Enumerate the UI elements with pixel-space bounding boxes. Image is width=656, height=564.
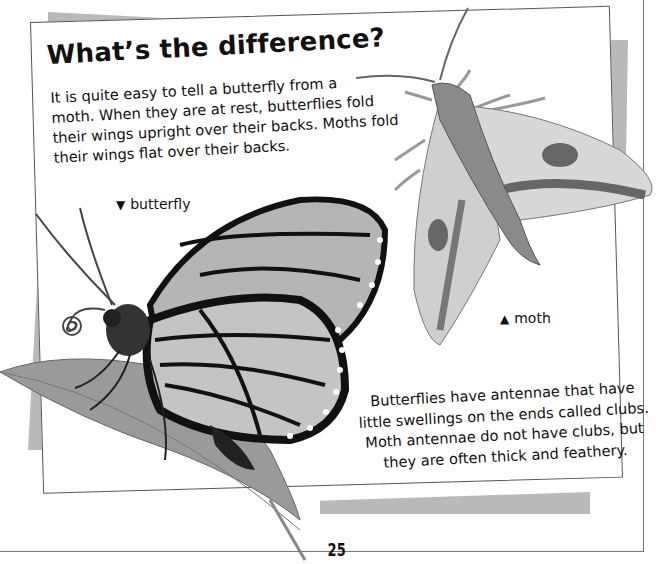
butterfly-label: ▼butterfly [116, 196, 190, 212]
moth-label: ▲moth [500, 310, 551, 326]
footer-rule-left [0, 551, 318, 552]
footer-rule-right [350, 551, 643, 552]
moth-label-text: moth [514, 310, 551, 326]
antennae-paragraph: Butterflies have antennae that have litt… [357, 377, 651, 474]
monarch-butterfly-illustration [0, 0, 656, 564]
triangle-up-icon: ▲ [500, 312, 509, 326]
triangle-down-icon: ▼ [116, 198, 125, 212]
butterfly-label-text: butterfly [130, 196, 190, 212]
page-number: 25 [328, 540, 346, 560]
